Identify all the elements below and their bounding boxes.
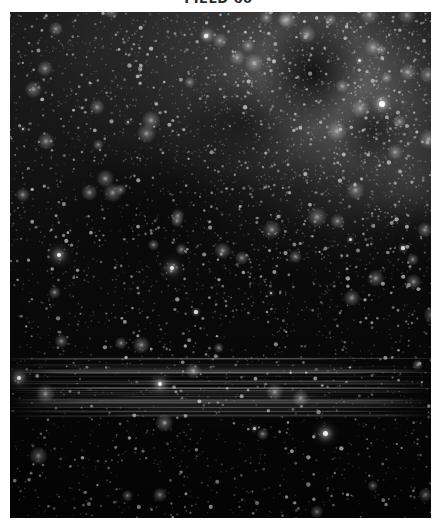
figure-title-container: FIELD 60 xyxy=(0,0,437,6)
sky-image-panel xyxy=(10,12,431,518)
figure-root: FIELD 60 xyxy=(0,0,437,527)
page-title: FIELD 60 xyxy=(184,0,252,6)
star-field-canvas xyxy=(10,12,431,518)
